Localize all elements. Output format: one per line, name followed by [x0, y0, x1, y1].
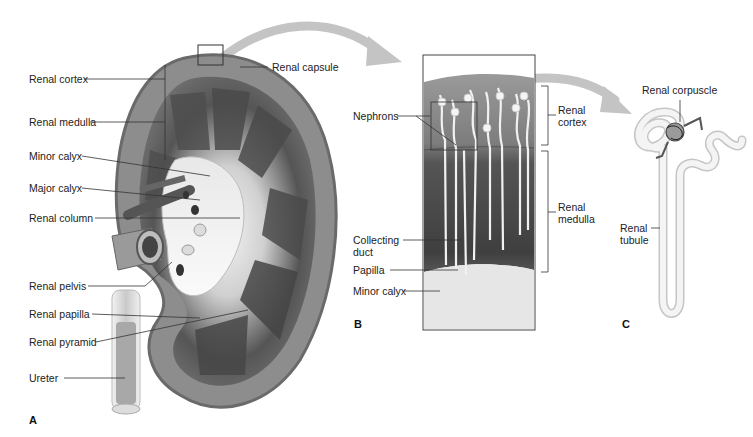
- kidney-illustration: [112, 45, 336, 414]
- renal-vessel-section: [112, 228, 163, 270]
- nephron-illustration: [639, 112, 742, 314]
- label-renal-capsule: Renal capsule: [272, 61, 339, 73]
- label-renal-column: Renal column: [29, 212, 93, 224]
- label-collecting-duct: Collecting duct: [353, 234, 401, 258]
- label-renal-tubule: Renal tubule: [620, 222, 654, 246]
- label-renal-pelvis: Renal pelvis: [29, 280, 86, 292]
- label-renal-pyramid: Renal pyramid: [29, 336, 97, 348]
- panel-letter-b: B: [354, 318, 362, 330]
- panel-letter-a: A: [29, 414, 37, 426]
- label-renal-cortex: Renal cortex: [29, 73, 88, 85]
- label-minor-calyx: Minor calyx: [29, 150, 82, 162]
- pyramid-enlargement-illustration: [423, 55, 535, 330]
- panel-letter-c: C: [622, 318, 630, 330]
- label-ureter: Ureter: [29, 372, 58, 384]
- label-renal-corpuscle: Renal corpuscle: [642, 84, 717, 96]
- kidney-diagram-artwork: [0, 0, 753, 437]
- label-major-calyx: Major calyx: [29, 182, 82, 194]
- label-renal-medulla-b: Renal medulla: [558, 201, 602, 225]
- label-minor-calyx-b: Minor calyx: [353, 285, 406, 297]
- label-nephrons: Nephrons: [353, 110, 399, 122]
- label-renal-cortex-b: Renal cortex: [558, 104, 602, 128]
- label-papilla: Papilla: [353, 264, 385, 276]
- label-renal-medulla: Renal medulla: [29, 116, 96, 128]
- label-renal-papilla: Renal papilla: [29, 308, 90, 320]
